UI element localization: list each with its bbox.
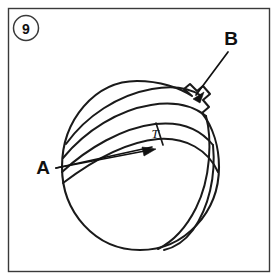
ball-illustration [62, 81, 219, 250]
leader-b-group: B [193, 28, 238, 104]
leader-b-line [196, 52, 228, 95]
callout-marker: 9 [14, 16, 39, 41]
band-upper-bottom-edge [63, 103, 206, 158]
figure-panel: 9 B A T [0, 0, 278, 280]
dimension-t-label: T [151, 126, 159, 141]
label-a-text: A [36, 157, 50, 178]
band-trailing-edge-right [158, 116, 209, 249]
technical-drawing: 9 B A T [0, 0, 278, 280]
band-lower-top-edge [62, 123, 213, 172]
label-b-text: B [224, 28, 238, 49]
callout-number-label: 9 [22, 21, 30, 37]
band-trailing-edge-inner [164, 145, 214, 250]
leader-a-group: A [36, 147, 156, 178]
